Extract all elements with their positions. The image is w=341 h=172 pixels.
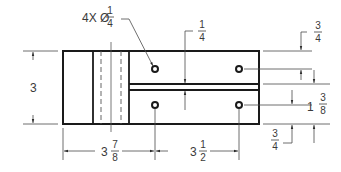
dim-left-to-hole: 3 7 8	[101, 139, 119, 163]
dim-top-offset: 3 4	[314, 20, 322, 44]
svg-text:3: 3	[315, 20, 321, 31]
svg-text:7: 7	[112, 139, 118, 150]
svg-text:3: 3	[272, 128, 278, 139]
holes	[152, 66, 242, 108]
svg-text:4: 4	[315, 33, 321, 44]
svg-text:4: 4	[107, 18, 113, 29]
svg-text:3: 3	[190, 145, 197, 159]
svg-text:8: 8	[112, 152, 118, 163]
hole-callout: 4X Ø 1 4	[82, 5, 114, 29]
svg-text:1: 1	[307, 100, 314, 114]
dim-height: 3	[30, 81, 37, 95]
hole-icon	[236, 66, 242, 72]
hole-icon	[236, 102, 242, 108]
svg-text:2: 2	[200, 152, 206, 163]
svg-text:4: 4	[199, 32, 205, 43]
svg-text:3: 3	[101, 145, 108, 159]
part-outline	[63, 51, 259, 124]
dim-hole-spacing-h: 3 1 2	[190, 139, 207, 163]
svg-text:1: 1	[200, 139, 206, 150]
dim-slot-top: 1 4	[198, 19, 206, 43]
svg-text:1: 1	[107, 5, 113, 16]
svg-text:8: 8	[320, 105, 326, 116]
svg-text:3: 3	[320, 92, 326, 103]
hole-icon	[152, 66, 158, 72]
hole-icon	[152, 102, 158, 108]
svg-text:4X Ø: 4X Ø	[82, 11, 109, 25]
dim-hole-spacing-v: 1 3 8	[307, 92, 327, 116]
dim-bottom-offset: 3 4	[271, 128, 279, 152]
svg-text:4: 4	[272, 141, 278, 152]
technical-drawing: 4X Ø 1 4 3 1 4 3 4 1 3 8 3 4 3 7 8 3 1 2	[0, 0, 341, 172]
svg-text:1: 1	[199, 19, 205, 30]
